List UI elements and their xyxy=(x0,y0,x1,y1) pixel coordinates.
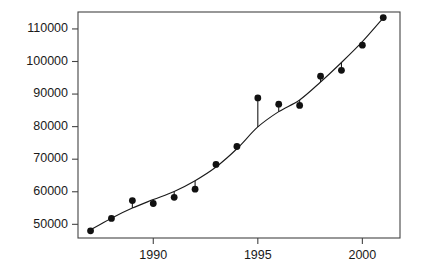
data-point xyxy=(380,14,387,21)
y-tick-label: 70000 xyxy=(33,151,68,165)
data-point xyxy=(87,227,94,234)
data-point xyxy=(338,67,345,74)
data-point xyxy=(129,197,136,204)
y-tick-label: 110000 xyxy=(27,21,68,35)
y-tick-label: 90000 xyxy=(33,86,68,100)
data-point xyxy=(359,42,366,49)
data-point xyxy=(296,102,303,109)
data-point xyxy=(213,161,220,168)
data-point xyxy=(150,200,157,207)
data-point xyxy=(171,194,178,201)
data-point xyxy=(254,95,261,102)
data-point xyxy=(317,73,324,80)
y-tick-label: 60000 xyxy=(33,184,68,198)
y-tick-label: 80000 xyxy=(33,119,68,133)
data-point xyxy=(108,215,115,222)
scatter-plot-with-fitted-curve: 5000060000700008000090000100000110000 19… xyxy=(0,0,421,274)
data-point xyxy=(234,143,241,150)
x-tick-label: 1990 xyxy=(139,248,167,262)
chart-background xyxy=(0,0,421,274)
x-tick-label: 2000 xyxy=(348,248,376,262)
y-tick-label: 50000 xyxy=(33,217,68,231)
data-point xyxy=(192,186,199,193)
y-tick-label: 100000 xyxy=(26,54,68,68)
x-tick-label: 1995 xyxy=(244,248,272,262)
chart-container: 5000060000700008000090000100000110000 19… xyxy=(0,0,421,274)
data-point xyxy=(275,101,282,108)
